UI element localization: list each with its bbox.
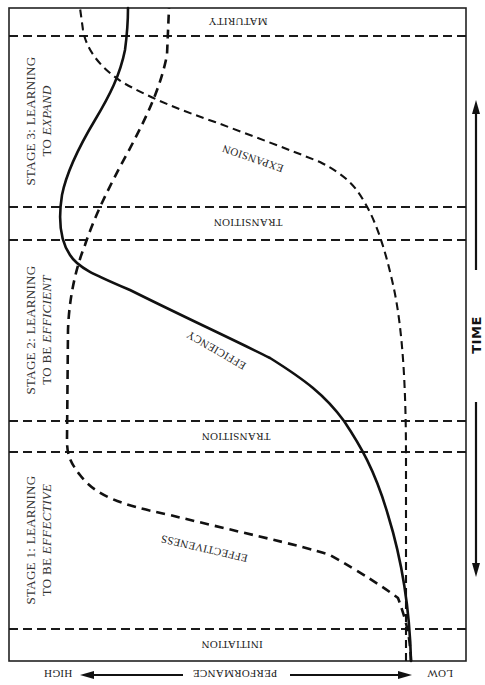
phase-label-maturity: MATURITY (208, 16, 267, 28)
time-axis: TIME (469, 100, 484, 577)
time-axis-label: TIME (469, 316, 484, 354)
performance-axis-label: PERFORMANCE (193, 668, 278, 680)
phase-label-initiation: INITIATION (201, 639, 263, 651)
performance-axis: HIGH PERFORMANCE LOW (44, 668, 453, 680)
phase-label-transition-lower: TRANSITION (202, 431, 271, 443)
performance-high-label: HIGH (44, 668, 73, 680)
stage-2-line1: STAGE 2: LEARNING (23, 266, 38, 395)
stage-3-line2: TO EXPAND (39, 85, 54, 157)
phase-dividers (9, 36, 466, 629)
performance-arrow-high-icon (80, 671, 94, 679)
stage-1-italic: EFFECTIVE (39, 484, 54, 556)
time-arrow-down-icon (472, 563, 480, 577)
stage-label-3: STAGE 3: LEARNING TO EXPAND (23, 57, 54, 186)
curve-label-expansion: EXPANSION (220, 143, 284, 175)
time-arrow-up-icon (472, 100, 480, 114)
performance-low-label: LOW (427, 668, 453, 680)
curve-label-effectiveness: EFFECTIVENESS (159, 533, 248, 565)
stage-2-prefix: TO BE (39, 343, 54, 385)
phase-label-transition-upper: TRANSITION (214, 217, 283, 229)
performance-arrow-low-icon (398, 671, 412, 679)
stage-1-line1: STAGE 1: LEARNING (23, 476, 38, 605)
stage-3-line1: STAGE 3: LEARNING (23, 57, 38, 186)
learning-stages-diagram: MATURITY TRANSITION TRANSITION INITIATIO… (0, 0, 485, 685)
stage-2-line2: TO BE EFFICIENT (39, 275, 54, 385)
stage-2-italic: EFFICIENT (39, 275, 54, 344)
stage-3-prefix: TO (39, 135, 54, 156)
stage-1-line2: TO BE EFFECTIVE (39, 484, 54, 597)
stage-label-2: STAGE 2: LEARNING TO BE EFFICIENT (23, 266, 54, 395)
stage-label-1: STAGE 1: LEARNING TO BE EFFECTIVE (23, 476, 54, 605)
stage-3-italic: EXPAND (39, 85, 54, 136)
stage-1-prefix: TO BE (39, 554, 54, 596)
curve-label-efficiency: EFFICIENCY (184, 329, 248, 373)
